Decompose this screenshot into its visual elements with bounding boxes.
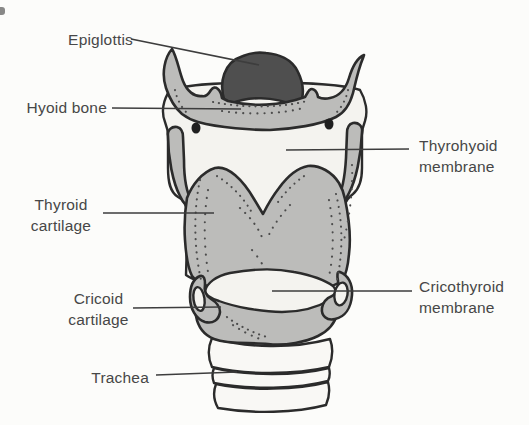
hyoid-foramen-dot-left <box>192 123 201 134</box>
label-thyrohyoid-membrane: Thyrohyoid membrane <box>419 135 515 177</box>
larynx-diagram: Epiglottis Hyoid bone Thyrohyoid membran… <box>0 0 529 425</box>
leader-line-epiglottis <box>131 39 259 65</box>
leader-line-hyoid-bone <box>112 108 241 109</box>
label-epiglottis: Epiglottis <box>13 29 133 50</box>
label-cricoid-cartilage: Cricoid cartilage <box>48 288 149 330</box>
label-thyroid-cartilage: Thyroid cartilage <box>11 194 111 236</box>
label-hyoid-bone: Hyoid bone <box>0 97 107 118</box>
label-cricothyroid-membrane: Cricothyroid membrane <box>419 276 523 318</box>
leader-line-thyrohyoid-membrane <box>286 149 409 150</box>
hyoid-foramen-dot-right <box>325 119 334 130</box>
label-trachea: Trachea <box>41 367 149 388</box>
